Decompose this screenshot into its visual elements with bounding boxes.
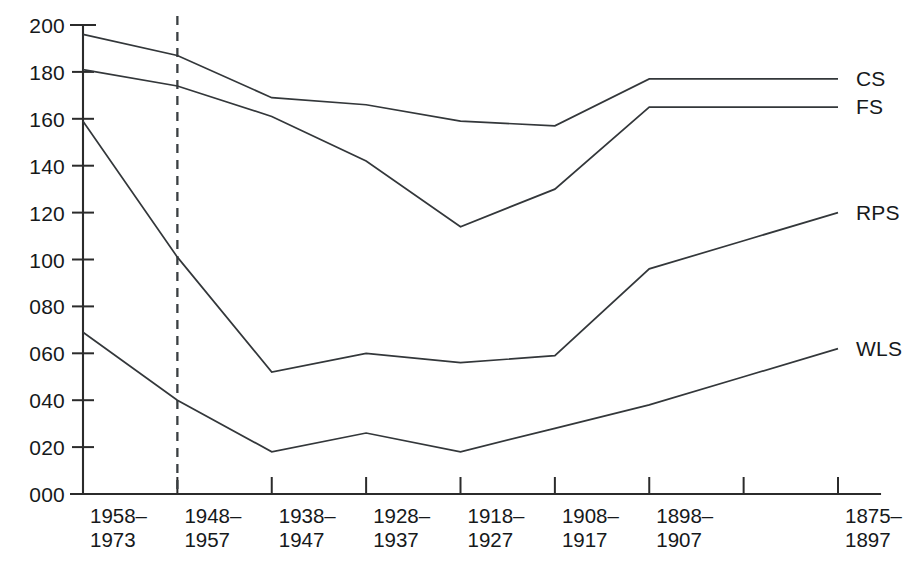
series-line-fs xyxy=(83,70,838,227)
y-axis-label-080: 080 xyxy=(29,296,65,317)
x-axis-label-1908–1917: 1908–1917 xyxy=(562,504,619,552)
series-label-cs: CS xyxy=(856,68,886,89)
chart-axes xyxy=(83,25,880,494)
series-label-fs: FS xyxy=(856,96,883,117)
x-axis-label-line: 1918– xyxy=(468,504,525,528)
x-axis-label-line: 1928– xyxy=(373,504,430,528)
y-axis-label-200: 200 xyxy=(29,15,65,36)
x-axis-label-line: 1937 xyxy=(373,528,430,552)
y-axis-label-060: 060 xyxy=(29,343,65,364)
x-axis-label-line: 1958– xyxy=(90,504,147,528)
x-axis-label-1948–1957: 1948–1957 xyxy=(184,504,241,552)
x-axis-label-line: 1898– xyxy=(656,504,713,528)
x-axis-label-line: 1947 xyxy=(279,528,336,552)
x-axis-label-1928–1937: 1928–1937 xyxy=(373,504,430,552)
x-axis-label-line: 1938– xyxy=(279,504,336,528)
x-axis-label-line: 1917 xyxy=(562,528,619,552)
x-axis-label-line: 1908– xyxy=(562,504,619,528)
x-axis-label-line: 1957 xyxy=(184,528,241,552)
x-axis-label-line: 1907 xyxy=(656,528,713,552)
series-label-wls: WLS xyxy=(856,338,902,359)
x-axis-label-1958–1973: 1958–1973 xyxy=(90,504,147,552)
y-axis-label-160: 160 xyxy=(29,109,65,130)
y-axis-label-120: 120 xyxy=(29,203,65,224)
series-line-rps xyxy=(83,121,838,372)
chart-plot-area xyxy=(0,0,918,565)
series-label-rps: RPS xyxy=(856,202,900,223)
line-chart-figure: 200180160140120100080060040020000 1958–1… xyxy=(0,0,918,565)
x-axis-label-line: 1875– xyxy=(845,504,902,528)
x-axis-label-1918–1927: 1918–1927 xyxy=(468,504,525,552)
x-axis-label-1898–1907: 1898–1907 xyxy=(656,504,713,552)
y-axis-label-020: 020 xyxy=(29,437,65,458)
x-axis-label-line: 1948– xyxy=(184,504,241,528)
y-axis-label-140: 140 xyxy=(29,156,65,177)
series-line-wls xyxy=(83,332,838,452)
y-axis-label-040: 040 xyxy=(29,390,65,411)
x-axis-label-line: 1897 xyxy=(845,528,902,552)
y-axis-label-000: 000 xyxy=(29,484,65,505)
y-axis-label-180: 180 xyxy=(29,62,65,83)
x-axis-label-line: 1927 xyxy=(468,528,525,552)
chart-tick-marks xyxy=(70,25,838,494)
series-line-cs xyxy=(83,34,838,125)
y-axis-label-100: 100 xyxy=(29,250,65,271)
x-axis-label-1938–1947: 1938–1947 xyxy=(279,504,336,552)
x-axis-label-line: 1973 xyxy=(90,528,147,552)
x-axis-label-1875–1897: 1875–1897 xyxy=(845,504,902,552)
chart-series-lines xyxy=(83,34,838,451)
